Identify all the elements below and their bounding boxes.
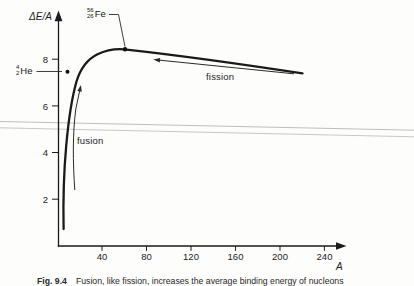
x-tick-label-200: 200 — [263, 251, 297, 262]
x-axis-arrow-icon — [336, 242, 347, 250]
figure-caption-number: Fig. 9.4 — [37, 276, 67, 286]
x-tick-label-80: 80 — [130, 251, 164, 262]
figure-caption-text: Fusion, like fission, increases the aver… — [76, 276, 344, 286]
fission-arrowhead-icon — [153, 58, 160, 63]
iron-56-label: 5626Fe — [87, 8, 106, 20]
helium-4-label: 42He — [16, 65, 33, 77]
helium-4-scripts: 42 — [16, 65, 19, 77]
iron-symbol: Fe — [95, 9, 106, 19]
he-4-point — [66, 70, 70, 74]
fe-leader-line — [109, 15, 125, 47]
y-axis-arrow-icon — [55, 11, 63, 22]
fusion-label: fusion — [77, 135, 104, 146]
x-tick-label-160: 160 — [219, 251, 253, 262]
fission-label: fission — [206, 71, 234, 82]
helium-atomic-number: 2 — [16, 71, 19, 77]
x-tick-label-40: 40 — [85, 251, 119, 262]
fe-56-point — [123, 47, 127, 51]
x-axis-label: A — [336, 261, 343, 272]
x-tick-label-120: 120 — [174, 251, 208, 262]
figure-caption: Fig. 9.4Fusion, like fission, increases … — [37, 276, 411, 286]
fusion-arrowhead-icon — [77, 85, 82, 92]
helium-symbol: He — [20, 66, 32, 76]
y-tick-label-2: 2 — [34, 194, 48, 205]
y-tick-label-8: 8 — [34, 54, 48, 65]
iron-atomic-number: 26 — [87, 14, 94, 20]
binding-energy-figure: ΔE/A 8 6 4 2 40 80 120 160 200 240 A 42H… — [0, 0, 414, 286]
y-tick-label-4: 4 — [34, 147, 48, 158]
plot-canvas — [0, 0, 414, 286]
y-axis-label: ΔE/A — [29, 11, 52, 22]
iron-56-scripts: 5626 — [87, 8, 94, 20]
y-tick-label-6: 6 — [34, 101, 48, 112]
